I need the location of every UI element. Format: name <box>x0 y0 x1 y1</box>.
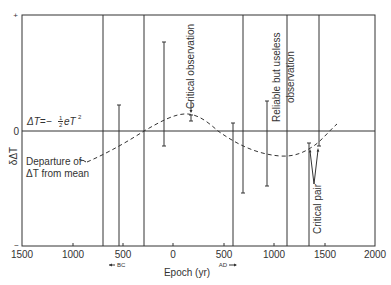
svg-text:ΔT=−: ΔT=− <box>26 116 52 127</box>
x-axis-label: Epoch (yr) <box>164 267 210 278</box>
svg-text:Critical pair: Critical pair <box>312 183 323 234</box>
svg-text:2: 2 <box>59 122 63 128</box>
svg-text:500: 500 <box>216 249 233 260</box>
svg-text:observation: observation <box>285 51 296 103</box>
ad-label: AD <box>219 262 237 268</box>
x-tick-labels: 1500 1000 500 0 500 1000 1500 2000 <box>11 249 387 260</box>
curve-label: Departure of ΔT from mean <box>26 156 89 179</box>
svg-text:1500: 1500 <box>11 249 34 260</box>
y-tick-zero: 0 <box>13 126 19 137</box>
svg-text:BC: BC <box>117 262 126 268</box>
svg-text:2: 2 <box>78 114 82 120</box>
svg-text:Departure of: Departure of <box>26 156 82 167</box>
reliable-useless-label: Reliable but useless observation <box>271 33 296 123</box>
svg-text:Critical observation: Critical observation <box>185 24 196 109</box>
bc-label: BC <box>109 262 126 268</box>
chart: + 0 − δΔT 1500 1000 500 0 500 1000 1500 … <box>0 0 391 285</box>
svg-text:1: 1 <box>59 115 63 121</box>
equation-label: ΔT=− 1 2 eT 2 <box>26 114 82 128</box>
svg-text:eT: eT <box>64 116 77 127</box>
y-axis-label: δΔT <box>8 147 19 165</box>
svg-text:1000: 1000 <box>263 249 286 260</box>
svg-text:2000: 2000 <box>364 249 387 260</box>
svg-text:ΔT from mean: ΔT from mean <box>26 168 89 179</box>
svg-text:500: 500 <box>115 249 132 260</box>
y-tick-plus: + <box>13 11 18 20</box>
svg-text:0: 0 <box>170 249 176 260</box>
svg-text:Reliable but useless: Reliable but useless <box>271 33 282 123</box>
svg-text:1500: 1500 <box>314 249 337 260</box>
critical-observation-label: Critical observation <box>185 24 196 113</box>
svg-text:1000: 1000 <box>62 249 85 260</box>
critical-pair-label: Critical pair <box>309 148 323 234</box>
departure-curve <box>87 114 337 162</box>
svg-text:AD: AD <box>219 262 228 268</box>
